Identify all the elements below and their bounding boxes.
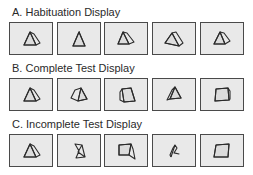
incomplete-test-panel-4 xyxy=(152,134,196,167)
incomplete-test-panel-3 xyxy=(104,134,148,167)
fragment-icon xyxy=(58,135,100,166)
habituation-panel-5 xyxy=(200,22,244,55)
row-label-incomplete-test: C. Incomplete Test Display xyxy=(12,118,142,130)
complete-test-panel-3 xyxy=(104,78,148,111)
prism-icon xyxy=(10,135,52,166)
complete-test-panel-5 xyxy=(200,78,244,111)
row-label-habituation: A. Habituation Display xyxy=(12,6,120,18)
prism-icon xyxy=(58,23,100,54)
prism-icon xyxy=(153,79,195,110)
prism-icon xyxy=(10,23,52,54)
prism-icon xyxy=(105,23,147,54)
square-icon xyxy=(201,135,243,166)
prism-icon xyxy=(153,23,195,54)
incomplete-test-panel-5 xyxy=(200,134,244,167)
square-icon xyxy=(201,79,243,110)
row-label-complete-test: B. Complete Test Display xyxy=(12,62,135,74)
fragment-icon xyxy=(105,135,147,166)
habituation-panel-4 xyxy=(152,22,196,55)
habituation-panel-3 xyxy=(104,22,148,55)
prism-icon xyxy=(201,23,243,54)
habituation-panel-2 xyxy=(57,22,101,55)
habituation-panel-1 xyxy=(9,22,53,55)
incomplete-test-panel-1 xyxy=(9,134,53,167)
prism-icon xyxy=(58,79,100,110)
complete-test-panel-1 xyxy=(9,78,53,111)
fragment-icon xyxy=(153,135,195,166)
quad-prism-icon xyxy=(105,79,147,110)
complete-test-panel-4 xyxy=(152,78,196,111)
prism-icon xyxy=(10,79,52,110)
complete-test-panel-2 xyxy=(57,78,101,111)
incomplete-test-panel-2 xyxy=(57,134,101,167)
